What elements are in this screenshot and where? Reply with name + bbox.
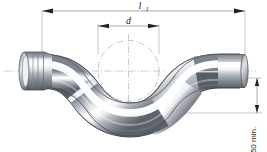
socket-bore [22,56,28,87]
plain-end [218,55,248,88]
l1-subscript: 1 [146,5,149,12]
offset-label: 50 min. [249,127,258,152]
plain-end-highlight [218,62,244,66]
plain-end-face [241,55,248,88]
technical-drawing-canvas: l 1 d 50 min. [0,0,267,152]
plain-end-barrel [218,55,244,88]
socket-taper [44,52,52,90]
socket-end [19,52,52,90]
l1-label: l [139,0,142,11]
